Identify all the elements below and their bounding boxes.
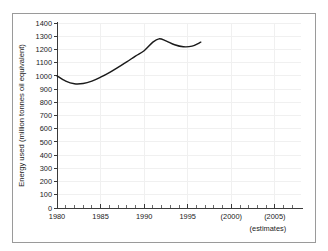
y-axis-tick-label: 1300 (36, 32, 52, 41)
y-axis-tick-label: 500 (40, 138, 52, 147)
y-axis-tick-label: 100 (40, 190, 52, 199)
y-axis-tick-label: 1200 (36, 45, 52, 54)
y-axis-tick-label: 700 (40, 111, 52, 120)
x-axis-tick-label: (2000) (221, 212, 242, 221)
y-axis-tick-label: 400 (40, 151, 52, 160)
energy-used-line-chart: 0100200300400500600700800900100011001200… (13, 14, 317, 244)
estimates-note: (estimates) (250, 224, 287, 233)
x-axis-tick-label: 1980 (49, 212, 65, 221)
y-axis-tick-label: 1000 (36, 72, 52, 81)
y-axis-title: Energy used (million tonnes oil equivale… (17, 44, 26, 187)
x-axis-tick-label: (2005) (264, 212, 285, 221)
y-axis-tick-label: 1100 (36, 58, 52, 67)
data-series-line-energy-used (57, 39, 201, 84)
y-axis-tick-label: 800 (40, 98, 52, 107)
x-axis-tick-label: 1990 (136, 212, 152, 221)
y-axis-tick-label: 1400 (36, 19, 52, 28)
y-axis-tick-label: 200 (40, 177, 52, 186)
x-axis-tick-label: 1995 (179, 212, 195, 221)
y-axis-tick-label: 900 (40, 85, 52, 94)
chart-figure-frame: 0100200300400500600700800900100011001200… (12, 13, 316, 243)
y-axis-tick-label: 300 (40, 164, 52, 173)
x-axis-tick-label: 1985 (92, 212, 108, 221)
chart-plot-container: 0100200300400500600700800900100011001200… (13, 14, 317, 244)
y-axis-tick-label: 600 (40, 124, 52, 133)
